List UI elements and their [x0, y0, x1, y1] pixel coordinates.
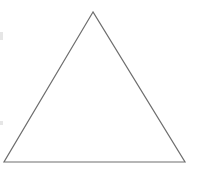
triangle-shape [4, 12, 185, 162]
diagram-canvas [0, 0, 198, 180]
